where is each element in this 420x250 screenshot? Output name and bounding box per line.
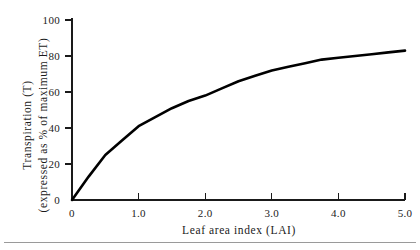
x-axis-title: Leaf area index (LAI)	[72, 224, 406, 236]
y-axis-ticks	[65, 20, 72, 164]
x-tick-label-5: 5.0	[398, 207, 413, 219]
y-axis-title: Transpiration (T) (expressed as % of max…	[19, 10, 51, 240]
y-axis-title-line-2: (expressed as % of maximum ET)	[35, 10, 51, 240]
x-tick-label-4: 4.0	[331, 207, 346, 219]
x-tick-label-2: 2.0	[198, 207, 213, 219]
x-axis-ticks	[139, 193, 405, 200]
x-tick-label-3: 3.0	[264, 207, 279, 219]
x-tick-label-0: 0	[69, 207, 75, 219]
transpiration-curve	[72, 51, 405, 200]
x-tick-label-1: 1.0	[131, 207, 146, 219]
y-axis-title-line-1: Transpiration (T)	[19, 10, 35, 240]
bottom-divider	[4, 242, 416, 243]
chart-figure: 100 80 60 40 20 0 0 1.0 2.0 3.0 4.0 5.0 …	[0, 0, 420, 250]
axis-lines	[72, 18, 405, 200]
